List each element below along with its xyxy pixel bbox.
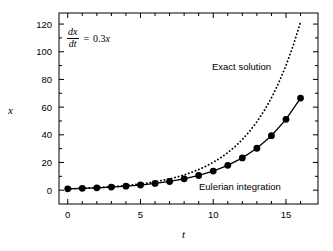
y-tick-label: 20 xyxy=(41,157,52,168)
fraction-numerator: dx xyxy=(66,27,79,38)
y-tick-label: 60 xyxy=(41,102,52,113)
equation-right-hand-side: 0.3x xyxy=(93,33,110,44)
y-tick-label: 120 xyxy=(36,19,52,30)
figure-container: 020406080100120051015 x t Exact solution… xyxy=(0,0,333,251)
data-point-marker xyxy=(268,132,275,139)
data-point-marker xyxy=(239,155,246,162)
annotation-exact-solution: Exact solution xyxy=(212,61,271,72)
data-point-marker xyxy=(283,116,290,123)
x-tick-label: 0 xyxy=(65,209,70,220)
y-tick-label: 40 xyxy=(41,129,52,140)
data-point-marker xyxy=(137,182,144,189)
x-axis-label: t xyxy=(182,228,185,240)
data-point-marker xyxy=(297,95,304,102)
equation-annotation: dx dt = 0.3x xyxy=(66,27,110,49)
derivative-fraction: dx dt xyxy=(66,27,79,49)
y-tick-label: 0 xyxy=(47,185,52,196)
data-point-marker xyxy=(210,168,217,175)
series-line-0 xyxy=(68,98,301,189)
fraction-denominator: dt xyxy=(67,38,79,50)
y-tick-label: 80 xyxy=(41,74,52,85)
data-point-marker xyxy=(253,145,260,152)
chart-canvas: 020406080100120051015 xyxy=(0,0,333,251)
y-axis-label: x xyxy=(8,104,13,116)
y-tick-label: 100 xyxy=(36,46,52,57)
x-tick-label: 10 xyxy=(208,209,219,220)
rhs-coefficient: 0.3 xyxy=(93,33,106,44)
x-tick-label: 15 xyxy=(281,209,292,220)
data-point-marker xyxy=(195,172,202,179)
x-tick-label: 5 xyxy=(138,209,143,220)
rhs-variable: x xyxy=(106,33,110,44)
equation-equals-sign: = xyxy=(83,33,89,44)
data-point-marker xyxy=(181,175,188,182)
data-point-marker xyxy=(224,162,231,169)
annotation-eulerian-integration: Eulerian integration xyxy=(199,181,281,192)
